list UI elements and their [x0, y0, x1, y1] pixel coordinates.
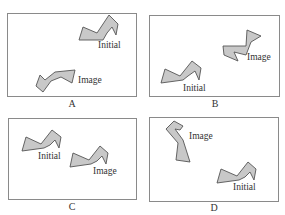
panel-c-image-shape — [70, 146, 108, 167]
panel-c: Initial Image — [22, 130, 117, 176]
panel-d-initial-shape — [217, 162, 256, 183]
panel-b: Initial Image — [161, 30, 271, 93]
panel-d-caption: D — [204, 203, 224, 213]
panel-a-caption: A — [62, 99, 82, 109]
panel-a-initial-label: Initial — [98, 40, 121, 50]
diagram-canvas: Initial Image Initial Image Initial Imag… — [0, 0, 285, 215]
panel-a-image-label: Image — [78, 75, 102, 85]
panel-d-initial-label: Initial — [233, 182, 256, 192]
panel-a-image-shape — [36, 70, 75, 92]
panel-c-caption: C — [62, 202, 82, 212]
panel-d-image-shape — [166, 121, 190, 162]
panel-b-caption: B — [205, 99, 225, 109]
panel-a: Initial Image — [36, 15, 121, 92]
panel-c-initial-label: Initial — [38, 151, 61, 161]
panel-c-initial-shape — [22, 130, 61, 151]
panel-d: Image Initial — [166, 121, 256, 192]
panel-b-initial-label: Initial — [183, 83, 206, 93]
panel-a-initial-shape — [79, 15, 118, 40]
panel-c-image-label: Image — [93, 166, 117, 176]
panel-b-image-label: Image — [247, 52, 271, 62]
panel-d-image-label: Image — [189, 131, 213, 141]
panel-b-initial-shape — [161, 61, 201, 83]
